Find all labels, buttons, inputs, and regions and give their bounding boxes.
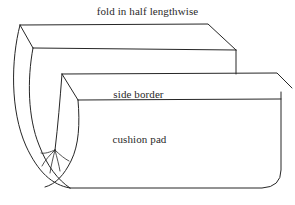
label-cushion-pad: cushion pad — [0, 134, 295, 145]
diagram-canvas: fold in half lengthwise side border cush… — [0, 0, 295, 205]
label-side-border: side border — [0, 89, 295, 100]
cushion-pad-line-drawing — [0, 0, 295, 205]
label-fold-in-half-lengthwise: fold in half lengthwise — [0, 6, 295, 17]
